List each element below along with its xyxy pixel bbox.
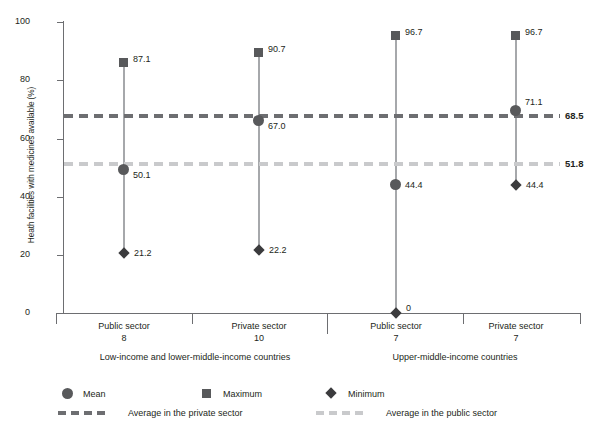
range-stem-1 bbox=[123, 62, 125, 255]
x-category-1: Public sector 8 bbox=[59, 320, 189, 344]
reference-label-private-sector: 68.5 bbox=[565, 110, 584, 121]
x-category-2-count: 10 bbox=[194, 332, 324, 344]
value-mean-1: 50.1 bbox=[133, 170, 151, 180]
marker-maximum-2 bbox=[254, 48, 263, 57]
marker-maximum-4 bbox=[511, 31, 520, 40]
marker-mean-4 bbox=[510, 105, 521, 116]
x-category-3-count: 7 bbox=[331, 332, 461, 344]
value-maximum-2: 90.7 bbox=[268, 44, 286, 54]
value-minimum-4: 44.4 bbox=[526, 180, 544, 190]
marker-minimum-2 bbox=[253, 244, 264, 255]
marker-minimum-3 bbox=[390, 307, 401, 318]
value-mean-2: 67.0 bbox=[268, 121, 286, 131]
x-axis-group-separator bbox=[327, 313, 328, 334]
x-category-4-count: 7 bbox=[451, 332, 581, 344]
legend-avg-private-label: Average in the private sector bbox=[128, 408, 242, 418]
value-mean-4: 71.1 bbox=[525, 97, 543, 107]
value-maximum-4: 96.7 bbox=[525, 27, 543, 37]
value-minimum-2: 22.2 bbox=[269, 245, 287, 255]
legend-avg-private-icon bbox=[58, 411, 110, 415]
x-category-2: Private sector 10 bbox=[194, 320, 324, 344]
legend-maximum-label: Maximum bbox=[223, 389, 262, 399]
marker-minimum-1 bbox=[118, 247, 129, 258]
x-category-4-label: Private sector bbox=[488, 321, 543, 331]
legend-avg-public-icon bbox=[316, 411, 368, 415]
x-category-3: Public sector 7 bbox=[331, 320, 461, 344]
x-category-1-label: Public sector bbox=[98, 321, 150, 331]
x-group-label-1: Low-income and lower-middle-income count… bbox=[60, 352, 330, 362]
legend-mean-icon bbox=[62, 388, 73, 399]
y-tick-label-20: 20 bbox=[2, 249, 30, 259]
legend-minimum-icon bbox=[325, 387, 336, 398]
x-axis-end-left bbox=[56, 313, 57, 324]
x-axis-separator-1 bbox=[192, 313, 193, 324]
y-axis-line bbox=[63, 21, 64, 314]
value-maximum-1: 87.1 bbox=[133, 54, 151, 64]
y-tick-label-80: 80 bbox=[2, 74, 30, 84]
x-category-1-count: 8 bbox=[59, 332, 189, 344]
chart-figure: Heath facilities with medicines availabl… bbox=[0, 0, 595, 436]
value-maximum-3: 96.7 bbox=[405, 27, 423, 37]
marker-maximum-1 bbox=[119, 58, 128, 67]
y-tick-label-100: 100 bbox=[2, 16, 30, 26]
value-minimum-3: 0 bbox=[406, 303, 411, 313]
range-stem-2 bbox=[258, 52, 260, 254]
marker-minimum-4 bbox=[510, 179, 521, 190]
marker-mean-2 bbox=[253, 115, 264, 126]
legend-mean-label: Mean bbox=[83, 389, 106, 399]
y-tick-label-60: 60 bbox=[2, 133, 30, 143]
marker-maximum-3 bbox=[391, 31, 400, 40]
legend-avg-public-label: Average in the public sector bbox=[386, 408, 497, 418]
x-category-3-label: Public sector bbox=[370, 321, 422, 331]
y-tick-40: 40 bbox=[0, 197, 63, 198]
y-tick-80: 80 bbox=[0, 80, 63, 81]
y-tick-label-40: 40 bbox=[2, 191, 30, 201]
reference-line-private-sector bbox=[64, 114, 560, 118]
y-tick-60: 60 bbox=[0, 139, 63, 140]
reference-label-public-sector: 51.8 bbox=[565, 158, 584, 169]
x-group-label-2: Upper-middle-income countries bbox=[330, 352, 580, 362]
x-category-2-label: Private sector bbox=[231, 321, 286, 331]
y-tick-label-0: 0 bbox=[2, 307, 30, 317]
marker-mean-1 bbox=[118, 164, 129, 175]
value-mean-3: 44.4 bbox=[405, 180, 423, 190]
chart-legend: Mean Maximum Minimum Average in the priv… bbox=[0, 380, 595, 436]
y-tick-100: 100 bbox=[0, 22, 63, 23]
reference-line-public-sector bbox=[64, 162, 560, 166]
value-minimum-1: 21.2 bbox=[134, 248, 152, 258]
legend-maximum-icon bbox=[202, 389, 211, 398]
x-axis-line bbox=[56, 313, 581, 314]
y-tick-20: 20 bbox=[0, 255, 63, 256]
marker-mean-3 bbox=[390, 179, 401, 190]
range-stem-3 bbox=[395, 35, 397, 314]
x-category-4: Private sector 7 bbox=[451, 320, 581, 344]
legend-minimum-label: Minimum bbox=[348, 389, 385, 399]
y-tick-0: 0 bbox=[0, 313, 63, 314]
